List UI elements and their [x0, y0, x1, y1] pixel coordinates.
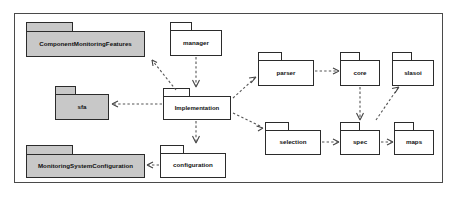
package-body: MonitoringSystemConfiguration [26, 154, 145, 178]
package-monitoring-system-configuration[interactable]: MonitoringSystemConfiguration [26, 145, 145, 178]
package-body: slasoi [392, 60, 434, 86]
package-selection[interactable]: selection [265, 122, 321, 155]
package-label: core [351, 70, 368, 77]
package-body: core [340, 60, 380, 86]
package-label: Implementation [173, 105, 222, 111]
package-body: parser [258, 60, 314, 86]
package-body: selection [265, 130, 321, 155]
diagram-canvas: ComponentMonitoringFeatures manager pars… [0, 0, 460, 198]
package-label: ComponentMonitoringFeatures [37, 41, 134, 48]
package-label: maps [404, 139, 424, 146]
package-label: sfa [75, 104, 88, 111]
package-label: slasoi [402, 70, 424, 77]
package-body: spec [340, 130, 380, 155]
package-sfa[interactable]: sfa [55, 86, 109, 120]
package-configuration[interactable]: configuration [160, 145, 226, 178]
package-implementation[interactable]: Implementation [163, 88, 231, 120]
package-label: selection [277, 139, 308, 146]
package-label: manager [181, 40, 211, 47]
package-label: MonitoringSystemConfiguration [36, 163, 135, 170]
package-body: maps [394, 130, 434, 155]
package-body: sfa [55, 94, 109, 120]
package-spec[interactable]: spec [340, 122, 380, 155]
package-body: configuration [160, 153, 226, 178]
package-label: configuration [171, 162, 215, 169]
package-manager[interactable]: manager [170, 22, 222, 56]
package-body: manager [170, 30, 222, 56]
package-component-monitoring-features[interactable]: ComponentMonitoringFeatures [26, 22, 145, 57]
package-core[interactable]: core [340, 52, 380, 86]
package-parser[interactable]: parser [258, 52, 314, 86]
package-body: Implementation [163, 96, 231, 120]
package-body: ComponentMonitoringFeatures [26, 31, 145, 57]
package-label: spec [351, 139, 369, 146]
package-maps[interactable]: maps [394, 122, 434, 155]
package-slasoi[interactable]: slasoi [392, 52, 434, 86]
package-label: parser [274, 70, 297, 77]
